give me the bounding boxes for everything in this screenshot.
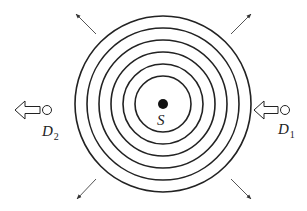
- detectors: D1D2: [15, 101, 295, 142]
- hollow-arrow-icon: [254, 101, 278, 119]
- arrow-bottom-right-icon: [231, 179, 251, 199]
- wavefront-diagram: S D1D2: [0, 0, 307, 211]
- detector-label: D1: [277, 121, 295, 140]
- arrow-top-left-icon: [76, 14, 96, 34]
- detector-label: D2: [41, 123, 59, 142]
- arrow-top-right-icon: [231, 14, 251, 34]
- detector-d2: D2: [15, 101, 59, 142]
- hollow-arrow-icon: [15, 101, 40, 119]
- source-point: S: [157, 99, 168, 128]
- detector-circle-icon: [43, 106, 52, 115]
- detector-d1: D1: [254, 101, 295, 140]
- source-dot: [158, 99, 168, 109]
- diagram-canvas: S D1D2: [0, 0, 307, 211]
- detector-circle-icon: [281, 106, 290, 115]
- arrow-bottom-left-icon: [77, 179, 96, 199]
- source-label: S: [157, 112, 165, 128]
